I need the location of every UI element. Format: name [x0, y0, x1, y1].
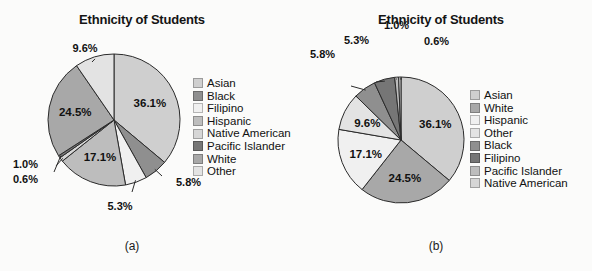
legend-label: Native American: [207, 127, 291, 140]
legend-item: Other: [470, 127, 568, 140]
legend-label: Pacific Islander: [484, 165, 562, 178]
legend-swatch-icon: [470, 153, 480, 163]
chart-panel-a: Ethnicity of Students 36.1%5.8%5.3%17.1%…: [0, 0, 296, 271]
legend-item: Other: [193, 165, 291, 178]
slice-value-label: 36.1%: [419, 118, 452, 130]
panel-caption-a: (a): [0, 239, 280, 253]
slice-value-label: 5.3%: [107, 200, 132, 212]
legend-swatch-icon: [470, 90, 480, 100]
slice-value-label: 9.6%: [354, 117, 380, 129]
legend-label: Filipino: [207, 102, 243, 115]
legend-label: Filipino: [484, 152, 520, 165]
legend-label: Black: [484, 139, 512, 152]
legend-item: White: [470, 102, 568, 115]
legend-a: AsianBlackFilipinoHispanicNative America…: [193, 77, 291, 178]
legend-label: Other: [207, 165, 236, 178]
legend-swatch-icon: [470, 166, 480, 176]
slice-value-label: 1.0%: [384, 19, 409, 31]
leader-line: [351, 86, 366, 90]
legend-label: White: [207, 153, 236, 166]
legend-swatch-icon: [470, 103, 480, 113]
leader-line: [155, 169, 162, 176]
slice-value-label: 5.8%: [176, 176, 201, 188]
legend-item: Filipino: [470, 152, 568, 165]
slice-value-label: 5.3%: [344, 34, 369, 46]
legend-label: Other: [484, 127, 513, 140]
legend-swatch-icon: [470, 128, 480, 138]
legend-item: Asian: [193, 77, 291, 90]
legend-item: White: [193, 153, 291, 166]
legend-item: Hispanic: [470, 114, 568, 127]
legend-label: Hispanic: [484, 114, 528, 127]
legend-item: Native American: [470, 177, 568, 190]
slice-value-label: 5.8%: [310, 48, 335, 60]
legend-swatch-icon: [193, 141, 203, 151]
legend-swatch-icon: [193, 129, 203, 139]
legend-swatch-icon: [193, 78, 203, 88]
slice-value-label: 0.6%: [13, 173, 38, 185]
slice-value-label: 9.6%: [72, 42, 97, 54]
slice-value-label: 36.1%: [134, 97, 167, 109]
slice-value-label: 0.6%: [424, 35, 449, 47]
legend-item: Native American: [193, 127, 291, 140]
legend-swatch-icon: [470, 178, 480, 188]
legend-swatch-icon: [470, 115, 480, 125]
legend-label: Asian: [484, 89, 513, 102]
slice-value-label: 24.5%: [389, 172, 422, 184]
slice-value-label: 24.5%: [59, 106, 92, 118]
legend-label: Native American: [484, 177, 568, 190]
legend-item: Filipino: [193, 102, 291, 115]
legend-item: Black: [193, 90, 291, 103]
panel-caption-b: (b): [288, 239, 584, 253]
legend-swatch-icon: [470, 141, 480, 151]
legend-label: Black: [207, 90, 235, 103]
legend-swatch-icon: [193, 166, 203, 176]
slice-value-label: 1.0%: [13, 158, 38, 170]
legend-item: Pacific Islander: [193, 140, 291, 153]
legend-item: Black: [470, 139, 568, 152]
legend-item: Hispanic: [193, 115, 291, 128]
slice-value-label: 17.1%: [349, 148, 382, 160]
leader-line: [54, 156, 61, 172]
legend-item: Pacific Islander: [470, 165, 568, 178]
legend-label: Asian: [207, 77, 236, 90]
legend-swatch-icon: [193, 154, 203, 164]
legend-item: Asian: [470, 89, 568, 102]
legend-swatch-icon: [193, 91, 203, 101]
pie-chart-figure: Ethnicity of Students 36.1%5.8%5.3%17.1%…: [0, 0, 592, 271]
legend-swatch-icon: [193, 103, 203, 113]
legend-label: Pacific Islander: [207, 140, 285, 153]
legend-label: White: [484, 102, 513, 115]
legend-swatch-icon: [193, 116, 203, 126]
legend-label: Hispanic: [207, 115, 251, 128]
chart-panel-b: Ethnicity of Students 36.1%24.5%17.1%9.6…: [296, 0, 592, 271]
legend-b: AsianWhiteHispanicOtherBlackFilipinoPaci…: [470, 89, 568, 190]
slice-value-label: 17.1%: [84, 151, 117, 163]
